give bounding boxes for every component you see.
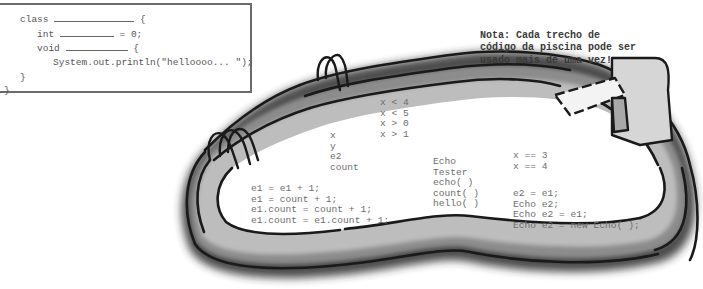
code-line-class: class { — [20, 12, 146, 27]
snippet[interactable]: e1.count = e1.count + 1; — [251, 216, 389, 227]
snippet[interactable]: x > 1 — [380, 130, 409, 141]
snippet[interactable]: x — [330, 131, 359, 142]
snippet[interactable]: count — [330, 163, 359, 174]
snippet[interactable]: x == 3 — [513, 151, 548, 162]
blank-class-name[interactable] — [54, 13, 134, 22]
code-line-close-method: } — [20, 70, 26, 85]
snippet-group-variables: xye2count — [330, 131, 359, 173]
code-line-close-class: } — [4, 83, 10, 98]
code-line-println: System.out.println("helloooo... "); — [53, 55, 253, 70]
snippet[interactable]: x == 4 — [513, 162, 548, 173]
snippet[interactable]: hello( ) — [433, 199, 479, 210]
snippet[interactable]: e1 = e1 + 1; — [251, 184, 389, 195]
blank-int-name[interactable] — [60, 28, 114, 37]
snippet[interactable]: Echo e2 = new Echo( ); — [513, 221, 640, 232]
snippet-group-names: EchoTesterecho( )count( )hello( ) — [433, 157, 479, 210]
snippet-group-assignments: e1 = e1 + 1;e1 = count + 1;e1.count = co… — [251, 184, 389, 226]
blank-method-name[interactable] — [66, 42, 128, 51]
snippet-group-declarations: e2 = e1;Echo e2;Echo e2 = e1;Echo e2 = n… — [513, 189, 640, 231]
code-line-void: void { — [37, 41, 139, 56]
snippet[interactable]: e2 = e1; — [513, 189, 640, 200]
snippet[interactable]: Echo — [433, 157, 479, 168]
pool-note: Nota: Cada trecho de código da piscina p… — [480, 30, 636, 67]
code-line-int: int = 0; — [37, 27, 142, 42]
snippet-group-equality: x == 3x == 4 — [513, 151, 548, 172]
snippet[interactable]: x < 4 — [380, 98, 409, 109]
snippet-group-conditions: x < 4x < 5x > 0x > 1 — [380, 98, 409, 140]
